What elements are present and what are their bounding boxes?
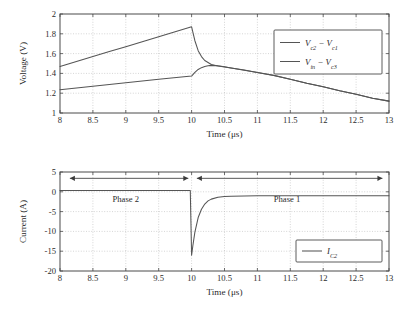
- y-tick-label: 1.8: [45, 29, 56, 39]
- y-tick-label: -10: [45, 226, 56, 236]
- x-tick-label: 10: [187, 273, 196, 283]
- x-tick-label: 9.5: [153, 115, 164, 125]
- legend-box[interactable]: [274, 30, 382, 74]
- x-tick-label: 10.5: [217, 115, 232, 125]
- x-tick-label: 12.5: [349, 115, 364, 125]
- x-tick-label: 9: [124, 273, 128, 283]
- voltage-plot-svg: 88.599.51010.51111.51212.51311.21.41.61.…: [0, 0, 404, 158]
- y-axis-title: Voltage (V): [18, 42, 28, 85]
- x-tick-label: 8: [58, 115, 62, 125]
- x-tick-label: 12: [319, 273, 328, 283]
- x-tick-label: 9.5: [153, 273, 164, 283]
- annotation-arrowhead-left: [197, 176, 202, 181]
- voltage-subplot: 88.599.51010.51111.51212.51311.21.41.61.…: [0, 0, 404, 158]
- x-tick-label: 8.5: [88, 115, 99, 125]
- figure-container: 88.599.51010.51111.51212.51311.21.41.61.…: [0, 0, 404, 316]
- y-tick-label: -5: [49, 207, 56, 217]
- x-tick-label: 10.5: [217, 273, 232, 283]
- y-tick-label: -15: [45, 246, 56, 256]
- current-subplot: Phase 2Phase 188.599.51010.51111.51212.5…: [0, 158, 404, 316]
- y-axis-title: Current (A): [18, 200, 28, 243]
- y-tick-label: 1.6: [45, 49, 56, 59]
- y-tick-label: 1.4: [45, 68, 56, 78]
- current-plot-svg: Phase 2Phase 188.599.51010.51111.51212.5…: [0, 158, 404, 316]
- x-tick-label: 11.5: [283, 115, 298, 125]
- x-tick-label: 8.5: [88, 273, 99, 283]
- x-tick-label: 8: [58, 273, 62, 283]
- y-tick-label: 1: [52, 108, 56, 118]
- x-tick-label: 10: [187, 115, 196, 125]
- annotation-arrowhead-right: [183, 176, 188, 181]
- x-tick-label: 9: [124, 115, 128, 125]
- x-tick-label: 11: [253, 273, 261, 283]
- y-tick-label: 1.2: [45, 88, 56, 98]
- y-tick-label: 5: [52, 167, 56, 177]
- y-tick-label: 2: [52, 9, 56, 19]
- x-axis-title: Time (μs): [207, 129, 243, 139]
- y-tick-label: 0: [52, 187, 56, 197]
- x-tick-label: 13: [385, 273, 394, 283]
- y-tick-label: -20: [45, 266, 56, 276]
- x-tick-label: 12: [319, 115, 328, 125]
- x-tick-label: 11.5: [283, 273, 298, 283]
- annotation-phase-1: Phase 1: [274, 194, 301, 204]
- annotation-arrowhead-right: [377, 176, 382, 181]
- annotation-phase-2: Phase 2: [113, 194, 140, 204]
- x-tick-label: 13: [385, 115, 394, 125]
- annotation-arrowhead-left: [70, 176, 75, 181]
- x-tick-label: 11: [253, 115, 261, 125]
- x-tick-label: 12.5: [349, 273, 364, 283]
- x-axis-title: Time (μs): [207, 287, 243, 297]
